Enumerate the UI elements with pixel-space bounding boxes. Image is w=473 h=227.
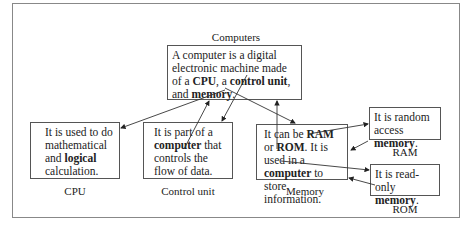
- connector-arrows: [0, 0, 473, 227]
